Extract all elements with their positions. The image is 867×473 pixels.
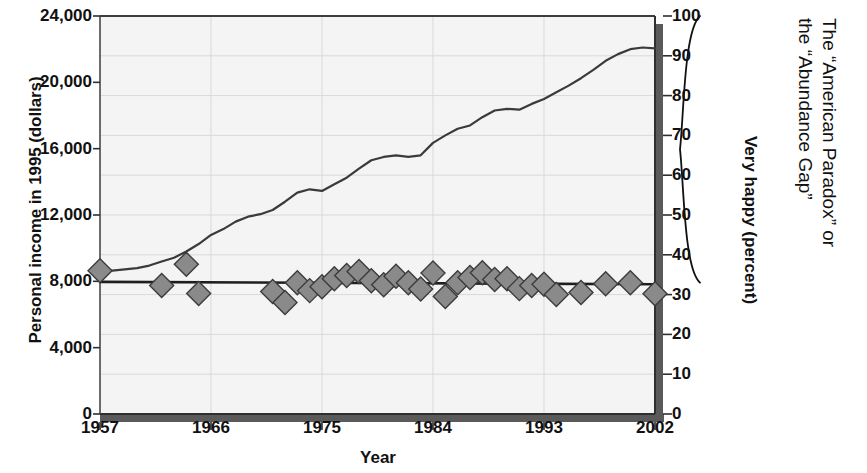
x-axis-tick-labels: 195719661975198419932002 (0, 419, 867, 449)
annotation-line-1: The “American Paradox” or (818, 18, 840, 247)
x-tick-label: 1984 (414, 419, 452, 436)
x-axis-title: Year (100, 448, 656, 468)
left-tick-label: 24,000 (40, 7, 92, 24)
chart-figure: Personal income in 1995 (dollars) Very h… (0, 0, 867, 473)
x-tick-label: 1975 (303, 419, 341, 436)
left-tick-label: 12,000 (40, 206, 92, 223)
x-tick-label: 1993 (525, 419, 563, 436)
right-tick-label: 10 (672, 365, 691, 382)
annotation-line-2: the “Abundance Gap” (794, 18, 816, 200)
left-tick-label: 4,000 (49, 339, 92, 356)
right-tick-label: 20 (672, 325, 691, 342)
abundance-gap-annotation: The “American Paradox” or the “Abundance… (688, 12, 864, 312)
left-tick-label: 8,000 (49, 272, 92, 289)
left-tick-label: 20,000 (40, 73, 92, 90)
axis-shadow-right (655, 24, 663, 422)
x-tick-label: 1966 (192, 419, 230, 436)
left-axis-tick-labels: 04,0008,00012,00016,00020,00024,000 (0, 0, 92, 473)
left-tick-label: 16,000 (40, 140, 92, 157)
x-tick-label: 1957 (81, 419, 119, 436)
x-tick-label: 2002 (636, 419, 674, 436)
